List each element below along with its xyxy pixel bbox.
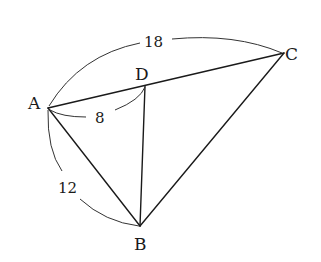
measure-ad: 8	[95, 109, 105, 127]
segment-bc	[140, 53, 284, 226]
label-a: A	[27, 93, 41, 113]
geometry-diagram: A B C D 18 8 12	[0, 0, 321, 262]
measure-ab: 12	[58, 179, 77, 197]
label-b: B	[134, 234, 147, 254]
arc-ab-12	[48, 110, 62, 171]
label-c: C	[285, 44, 298, 64]
segment-ac	[48, 53, 284, 108]
arc-ad-8-right	[115, 87, 145, 110]
measure-ac: 18	[144, 33, 163, 51]
arc-ac-18-right	[172, 38, 282, 53]
segment-ab	[48, 108, 140, 226]
segment-db	[140, 86, 145, 226]
arc-ad-8	[50, 110, 86, 117]
label-d: D	[135, 64, 149, 84]
